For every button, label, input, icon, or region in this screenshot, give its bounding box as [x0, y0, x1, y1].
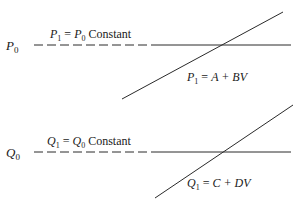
- bottom-linear-label: Q1 = C + DV: [187, 176, 252, 192]
- top-axis-label: P0: [5, 38, 19, 55]
- top-linear-line: [122, 12, 283, 99]
- top-panel: P0 P1 = P0 Constant P1 = A + BV: [5, 12, 291, 99]
- top-linear-label: P1 = A + BV: [186, 70, 249, 86]
- bottom-axis-label: Q0: [6, 145, 20, 162]
- diagram: P0 P1 = P0 Constant P1 = A + BV Q0: [0, 0, 308, 207]
- top-constant-label: P1 = P0 Constant: [49, 27, 132, 43]
- bottom-panel: Q0 Q1 = Q0 Constant Q1 = C + DV: [6, 105, 293, 198]
- bottom-constant-label: Q1 = Q0 Constant: [47, 134, 131, 150]
